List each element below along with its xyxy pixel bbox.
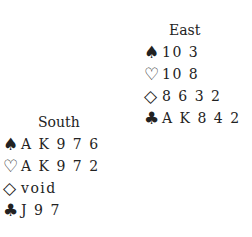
spade-icon: ♠ [144, 41, 162, 63]
east-diamonds-cards: 8 6 3 2 [162, 88, 221, 104]
heart-icon: ♡ [3, 155, 21, 177]
south-diamonds-cards: void [21, 180, 57, 196]
south-clubs-cards: J 9 7 [21, 202, 61, 218]
east-spades: ♠ 10 3 [144, 41, 241, 63]
diamond-icon: ◇ [144, 85, 162, 107]
south-clubs: ♣ J 9 7 [3, 199, 100, 221]
east-spades-cards: 10 3 [162, 44, 199, 60]
club-icon: ♣ [144, 107, 162, 129]
east-hand: East ♠ 10 3 ♡ 10 8 ◇ 8 6 3 2 ♣ A K 8 4 2 [144, 19, 241, 129]
east-title: East [144, 19, 241, 41]
spade-icon: ♠ [3, 133, 21, 155]
south-spades-cards: A K 9 7 6 [21, 136, 100, 152]
east-diamonds: ◇ 8 6 3 2 [144, 85, 241, 107]
south-hearts: ♡ A K 9 7 2 [3, 155, 100, 177]
east-clubs-cards: A K 8 4 2 [162, 110, 241, 126]
diamond-icon: ◇ [3, 177, 21, 199]
east-hearts: ♡ 10 8 [144, 63, 241, 85]
east-hearts-cards: 10 8 [162, 66, 199, 82]
south-title: South [3, 111, 100, 133]
south-diamonds: ◇ void [3, 177, 100, 199]
south-hearts-cards: A K 9 7 2 [21, 158, 100, 174]
club-icon: ♣ [3, 199, 21, 221]
heart-icon: ♡ [144, 63, 162, 85]
south-hand: South ♠ A K 9 7 6 ♡ A K 9 7 2 ◇ void ♣ J… [3, 111, 100, 221]
south-spades: ♠ A K 9 7 6 [3, 133, 100, 155]
east-clubs: ♣ A K 8 4 2 [144, 107, 241, 129]
